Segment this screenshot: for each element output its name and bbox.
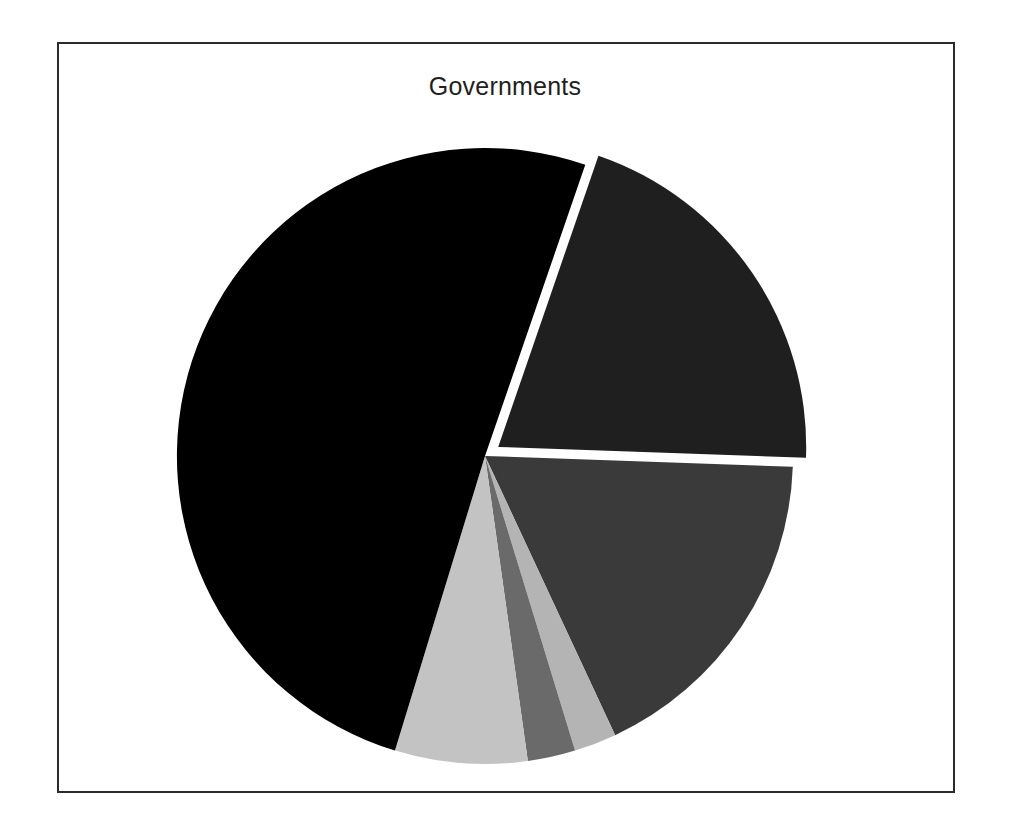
pie-slice-group <box>177 148 806 764</box>
pie-chart <box>57 42 955 793</box>
figure-root: Governments <box>0 0 1010 836</box>
pie-chart-svg <box>57 42 955 793</box>
